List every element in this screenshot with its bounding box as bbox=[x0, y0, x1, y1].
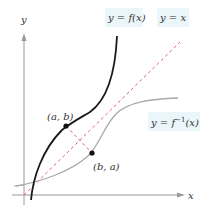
f-label: y = f(x) bbox=[107, 12, 146, 23]
point-b-a bbox=[89, 150, 94, 155]
f-inverse-label-arg: (x) bbox=[185, 117, 199, 128]
point-a-b bbox=[63, 123, 68, 128]
f-inverse-label-sup: −1 bbox=[175, 116, 185, 124]
reflection-segment bbox=[66, 126, 92, 153]
inverse-function-diagram: y x (a, b) (b, a) y = f(x) y = x y = f−1… bbox=[0, 0, 202, 218]
y-axis-label: y bbox=[20, 14, 27, 25]
f-inverse-curve bbox=[16, 98, 178, 186]
y-axis-arrow-icon bbox=[22, 33, 27, 41]
f-inverse-label-prefix: y = bbox=[150, 117, 171, 128]
identity-label: y = x bbox=[159, 12, 186, 23]
point-b-a-label: (b, a) bbox=[93, 161, 120, 172]
f-inverse-label: y = f−1(x) bbox=[150, 116, 199, 128]
f-label-prefix: y = bbox=[107, 12, 128, 23]
f-curve bbox=[31, 36, 117, 200]
point-a-b-label: (a, b) bbox=[47, 111, 74, 122]
x-axis-label: x bbox=[188, 190, 194, 201]
f-inverse-stub bbox=[14, 185, 24, 186]
x-axis-arrow-icon bbox=[177, 193, 185, 198]
f-label-arg: (x) bbox=[132, 12, 146, 23]
